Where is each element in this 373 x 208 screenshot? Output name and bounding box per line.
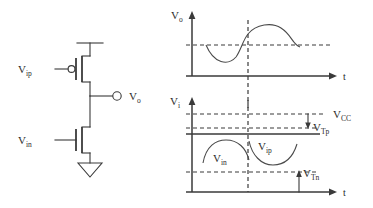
nmos-transistor bbox=[55, 127, 90, 163]
pmos-transistor bbox=[55, 56, 90, 96]
vtn-gap-arrow-head bbox=[296, 170, 302, 177]
vip-curve-label-main: V bbox=[258, 140, 266, 152]
vo-axis-label-sub: o bbox=[179, 15, 183, 24]
vtn-label-main: V bbox=[303, 167, 311, 179]
vo-axis-label-main: V bbox=[171, 9, 179, 21]
pmos-gate-label: Vip bbox=[18, 63, 32, 78]
vi-axis-label-sub: i bbox=[178, 101, 180, 110]
vin-curve-label-sub: in bbox=[221, 158, 227, 167]
input-waveform-panel: Vi t VCC VTp VTn Vin Vip bbox=[170, 95, 351, 198]
svg-text:Vin: Vin bbox=[18, 134, 32, 149]
svg-text:Vo: Vo bbox=[129, 90, 141, 105]
vo-x-axis-arrowhead bbox=[329, 73, 337, 80]
vip-curve-label: Vip bbox=[258, 140, 272, 155]
vo-time-axis-label: t bbox=[343, 71, 346, 82]
vip-curve-label-sub: ip bbox=[266, 146, 272, 155]
vo-y-axis-arrowhead bbox=[189, 11, 196, 19]
ground-symbol bbox=[78, 163, 102, 177]
vin-curve-label: Vin bbox=[213, 152, 227, 167]
vcc-label-main: V bbox=[333, 108, 341, 120]
nmos-gate-label-sub: in bbox=[26, 140, 32, 149]
nmos-gate-label-main: V bbox=[18, 134, 26, 146]
cmos-inverter-circuit: Vip Vin Vo bbox=[18, 43, 141, 177]
ground-triangle bbox=[78, 163, 102, 177]
vtp-gap-arrow bbox=[305, 114, 311, 129]
output-node-label: Vo bbox=[129, 90, 141, 105]
pmos-gate-label-main: V bbox=[18, 63, 26, 75]
output-node-label-main: V bbox=[129, 90, 137, 102]
svg-text:Vip: Vip bbox=[18, 63, 32, 78]
vi-y-axis-arrowhead bbox=[189, 97, 196, 105]
vip-curve bbox=[249, 141, 297, 165]
output-node-circle bbox=[113, 92, 121, 100]
vin-curve-label-main: V bbox=[213, 152, 221, 164]
pmos-gate-bubble bbox=[68, 66, 75, 73]
vi-time-axis-label: t bbox=[343, 187, 346, 198]
vo-axis-label: Vo bbox=[171, 9, 183, 24]
vtp-label-sub: Tp bbox=[321, 127, 330, 136]
vcc-label-sub: CC bbox=[341, 114, 351, 123]
vtn-gap-arrow bbox=[296, 170, 302, 192]
vi-axis-label: Vi bbox=[170, 95, 180, 110]
vo-curve bbox=[206, 25, 300, 63]
nmos-gate-label: Vin bbox=[18, 134, 32, 149]
output-terminal bbox=[90, 92, 121, 100]
vtn-label: VTn bbox=[303, 167, 320, 182]
vtp-label-main: V bbox=[313, 121, 321, 133]
vi-x-axis-arrowhead bbox=[329, 189, 337, 196]
vcc-label: VCC bbox=[333, 108, 351, 123]
figure-container: Vip Vin Vo bbox=[0, 0, 373, 208]
output-node-label-sub: o bbox=[137, 96, 141, 105]
pmos-gate-label-sub: ip bbox=[26, 69, 32, 78]
vi-axis-label-main: V bbox=[170, 95, 178, 107]
output-waveform-panel: Vo t bbox=[171, 9, 346, 110]
schematic-waveform-svg: Vip Vin Vo bbox=[0, 0, 373, 208]
vtn-label-sub: Tn bbox=[311, 173, 320, 182]
